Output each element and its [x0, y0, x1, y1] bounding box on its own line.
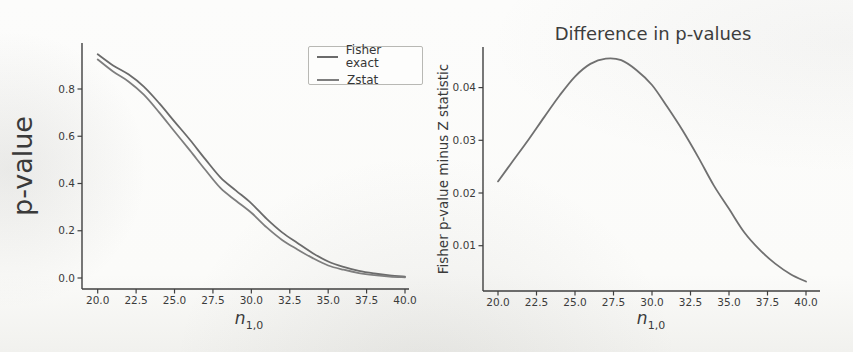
x-tick-label: 20.0	[486, 296, 509, 308]
right-plot-title: Difference in p-values	[555, 23, 752, 44]
fisher-p-value-minus-z-statistic-curve	[498, 58, 806, 281]
zstat-line-swatch	[317, 79, 339, 81]
y-tick-label: 0.6	[58, 130, 75, 142]
x-tick-label: 25.0	[563, 296, 586, 308]
x-tick-label: 22.5	[525, 296, 548, 308]
x-tick-label: 30.0	[240, 294, 263, 306]
y-tick-label: 0.2	[58, 224, 75, 236]
fisher-exact-curve	[98, 54, 405, 276]
y-tick-label: 0.4	[58, 177, 75, 189]
x-tick-label: 25.0	[163, 294, 186, 306]
x-tick-label: 27.5	[602, 296, 625, 308]
x-tick-label: 37.5	[756, 296, 779, 308]
left-x-axis-label: n1,0	[235, 308, 263, 331]
legend-label-fisher-exact: Fisher exact	[346, 44, 414, 70]
x-tick-label: 22.5	[124, 294, 147, 306]
right-y-axis-label: Fisher p-value minus Z statistic	[435, 64, 451, 275]
left-y-axis-label: p-value	[7, 116, 38, 216]
y-tick-label: 0.02	[453, 187, 476, 199]
y-tick-label: 0.04	[453, 81, 477, 93]
x-tick-label: 20.0	[86, 294, 109, 306]
x-variable-subscript: 1,0	[246, 319, 264, 332]
x-tick-label: 37.5	[355, 294, 378, 306]
x-variable-subscript: 1,0	[648, 319, 666, 332]
legend-label-zstat: Zstat	[347, 74, 378, 87]
x-tick-label: 32.5	[679, 296, 702, 308]
right-x-axis-label: n1,0	[637, 308, 665, 331]
x-tick-label: 32.5	[278, 294, 301, 306]
y-tick-label: 0.0	[58, 272, 75, 284]
fisher-exact-line-swatch	[317, 56, 338, 58]
legend-item-fisher-exact: Fisher exact	[317, 44, 414, 70]
x-tick-label: 35.0	[316, 294, 339, 306]
zstat-curve	[98, 59, 405, 277]
plots-canvas: 20.022.525.027.530.032.535.037.540.00.00…	[0, 0, 853, 352]
x-tick-label: 35.0	[717, 296, 740, 308]
figure-two-panel-plots: 20.022.525.027.530.032.535.037.540.00.00…	[0, 0, 853, 352]
y-tick-label: 0.8	[58, 83, 75, 95]
x-tick-label: 40.0	[393, 294, 416, 306]
legend-item-zstat: Zstat	[317, 74, 414, 87]
y-tick-label: 0.01	[453, 239, 476, 251]
x-tick-label: 30.0	[640, 296, 663, 308]
legend-box: Fisher exact Zstat	[308, 46, 423, 85]
x-variable: n	[637, 308, 648, 328]
x-variable: n	[235, 308, 246, 328]
x-tick-label: 40.0	[794, 296, 817, 308]
x-tick-label: 27.5	[201, 294, 224, 306]
y-tick-label: 0.03	[453, 134, 476, 146]
